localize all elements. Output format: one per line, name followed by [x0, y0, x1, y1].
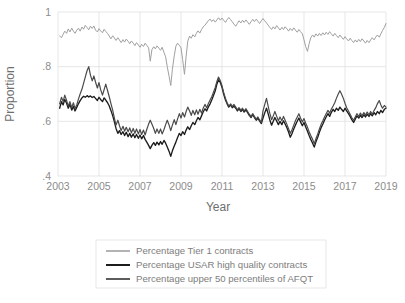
legend-label-1: Percentage USAR high quality contracts: [136, 259, 307, 270]
chart-legend: Percentage Tier 1 contractsPercentage US…: [96, 240, 326, 288]
x-tick-label: 2013: [251, 180, 275, 192]
x-axis-tick-labels: 200320052007200920112013201520172019: [46, 180, 398, 192]
x-tick-label: 2019: [374, 180, 398, 192]
proportion-by-year-line-chart: 1.8.6.4 20032005200720092011201320152017…: [0, 0, 405, 303]
x-tick-label: 2017: [333, 180, 357, 192]
y-tick-label: .8: [42, 60, 51, 72]
x-tick-label: 2003: [46, 180, 70, 192]
x-tick-label: 2009: [169, 180, 193, 192]
x-tick-label: 2005: [87, 180, 111, 192]
x-tick-label: 2015: [292, 180, 316, 192]
legend-label-2: Percentage upper 50 percentiles of AFQT: [136, 273, 313, 284]
y-axis-title: Proportion: [3, 66, 17, 121]
x-axis-title: Year: [206, 200, 230, 214]
x-tick-label: 2007: [128, 180, 152, 192]
legend-label-0: Percentage Tier 1 contracts: [136, 245, 254, 256]
chart-figure: 1.8.6.4 20032005200720092011201320152017…: [0, 0, 405, 303]
y-tick-label: .6: [42, 115, 51, 127]
y-tick-label: 1: [45, 6, 51, 18]
x-tick-label: 2011: [211, 180, 234, 192]
